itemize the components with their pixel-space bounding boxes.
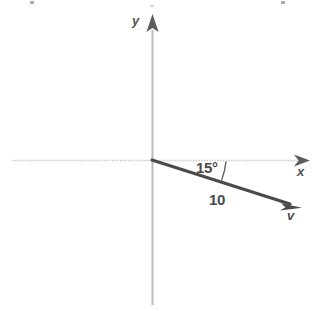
vector-label: v <box>287 209 294 222</box>
scan-artifact-mark <box>150 5 154 7</box>
angle-label: 15° <box>196 160 218 175</box>
x-axis-label: x <box>297 165 304 178</box>
scan-artifact-mark <box>30 1 34 4</box>
vector-diagram-canvas: y x v 15° 10 <box>0 0 316 311</box>
magnitude-label: 10 <box>209 192 225 207</box>
vector-diagram-figure <box>0 0 316 311</box>
scan-artifact-mark <box>281 1 285 4</box>
y-axis-label: y <box>132 14 139 27</box>
angle-arc <box>222 162 227 181</box>
y-axis-arrowhead <box>146 14 158 32</box>
